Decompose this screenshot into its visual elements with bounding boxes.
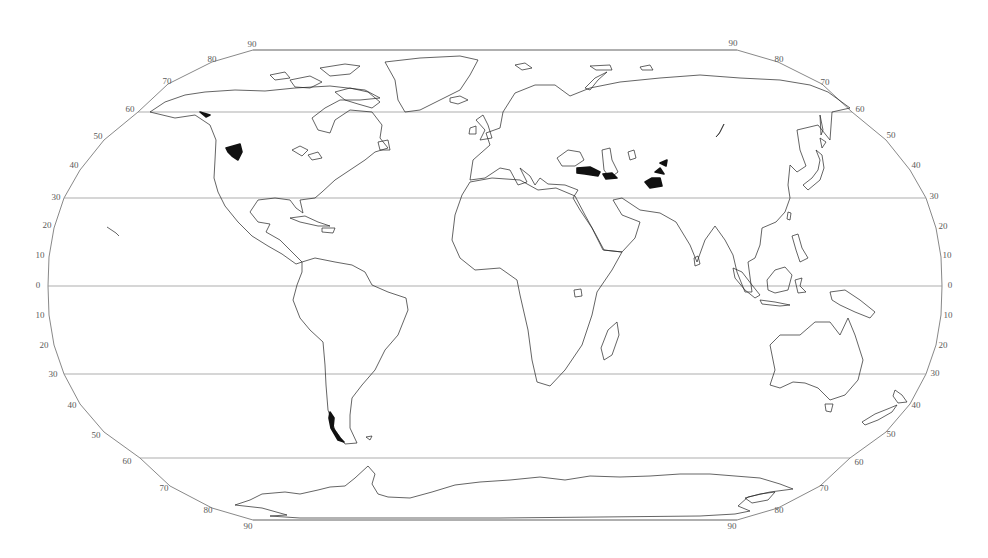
lat-label: 30 <box>49 369 59 379</box>
lat-label: 30 <box>52 192 62 202</box>
lat-label: 60 <box>126 104 136 114</box>
lat-label: 70 <box>160 483 170 493</box>
lat-label: 80 <box>208 54 218 64</box>
map-canvas: 90 80 70 60 50 40 30 20 10 0 10 20 30 40… <box>0 0 988 558</box>
lat-label: 60 <box>856 104 866 114</box>
lat-label: 40 <box>912 400 922 410</box>
lat-label: 80 <box>204 505 214 515</box>
lat-label: 10 <box>36 250 46 260</box>
lat-label: 0 <box>36 280 41 290</box>
lat-label: 70 <box>821 77 831 87</box>
lat-label: 20 <box>40 340 50 350</box>
lat-label: 80 <box>775 505 785 515</box>
lat-label: 10 <box>943 250 953 260</box>
lat-label: 90 <box>248 39 258 49</box>
lat-label: 50 <box>887 130 897 140</box>
lat-label: 40 <box>68 400 78 410</box>
lat-label: 90 <box>244 521 254 531</box>
lat-label: 40 <box>70 160 80 170</box>
lat-label: 60 <box>855 457 865 467</box>
lat-label: 20 <box>939 221 949 231</box>
world-map: 90 80 70 60 50 40 30 20 10 0 10 20 30 40… <box>0 0 988 558</box>
lat-label: 40 <box>912 160 922 170</box>
lat-label: 80 <box>775 54 785 64</box>
lat-label: 30 <box>930 191 940 201</box>
lat-label: 10 <box>36 310 46 320</box>
lat-label: 20 <box>939 340 949 350</box>
lat-label: 90 <box>728 521 738 531</box>
map-frame-outline <box>48 50 942 520</box>
lat-label: 20 <box>43 220 53 230</box>
lat-label: 50 <box>887 429 897 439</box>
lat-label: 60 <box>123 456 133 466</box>
lat-label: 10 <box>944 310 954 320</box>
lat-label: 70 <box>820 483 830 493</box>
lat-label: 90 <box>729 38 739 48</box>
lat-label: 50 <box>94 131 104 141</box>
lat-label: 50 <box>92 430 102 440</box>
lat-label: 30 <box>931 368 941 378</box>
lat-label: 0 <box>948 280 953 290</box>
lat-label: 70 <box>163 76 173 86</box>
